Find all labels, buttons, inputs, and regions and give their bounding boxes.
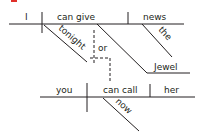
clause-2-verb-adverb: now	[114, 96, 134, 116]
clause-1-verb-adverb: tonight	[57, 23, 88, 52]
red-marker	[11, 0, 17, 2]
clause-2-subject: you	[56, 85, 73, 95]
clause-1-indirect-object: Jewel	[153, 62, 178, 72]
clause-1-object-article: the	[157, 25, 175, 43]
conjunction-connector: or	[90, 30, 110, 82]
conjunction: or	[98, 43, 108, 53]
clause-1-direct-object: news	[143, 12, 167, 22]
clause-2: you can call her now	[40, 83, 195, 131]
clause-2-verb: can call	[103, 85, 138, 95]
clause-1-subject: I	[25, 12, 28, 22]
sentence-diagram: I can give news tonight the Jewel or you…	[0, 0, 199, 136]
clause-1-verb: can give	[57, 12, 96, 22]
clause-2-direct-object: her	[164, 85, 179, 95]
